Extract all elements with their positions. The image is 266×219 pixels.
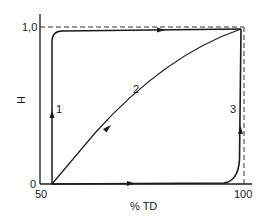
x-tick-100: 100 <box>234 188 252 200</box>
curve-1 <box>52 29 241 184</box>
y-tick-1: 1,0 <box>22 21 37 33</box>
arrow-icon <box>103 125 111 133</box>
curve-3-label: 3 <box>230 103 236 115</box>
arrow-icon <box>157 28 165 33</box>
x-tick-50: 50 <box>35 188 47 200</box>
arrow-icon <box>50 110 55 118</box>
curve-1-label: 1 <box>56 103 62 115</box>
y-axis-label: H <box>15 96 27 104</box>
curve-3 <box>52 29 241 184</box>
curve-2-label: 2 <box>133 83 139 95</box>
curve-2 <box>52 29 241 184</box>
arrow-icon <box>238 126 243 134</box>
x-axis-label: % TD <box>130 200 157 212</box>
arrow-icon <box>127 181 135 186</box>
chart: 1,0 0 50 100 % TD H 1 2 3 <box>0 0 266 219</box>
